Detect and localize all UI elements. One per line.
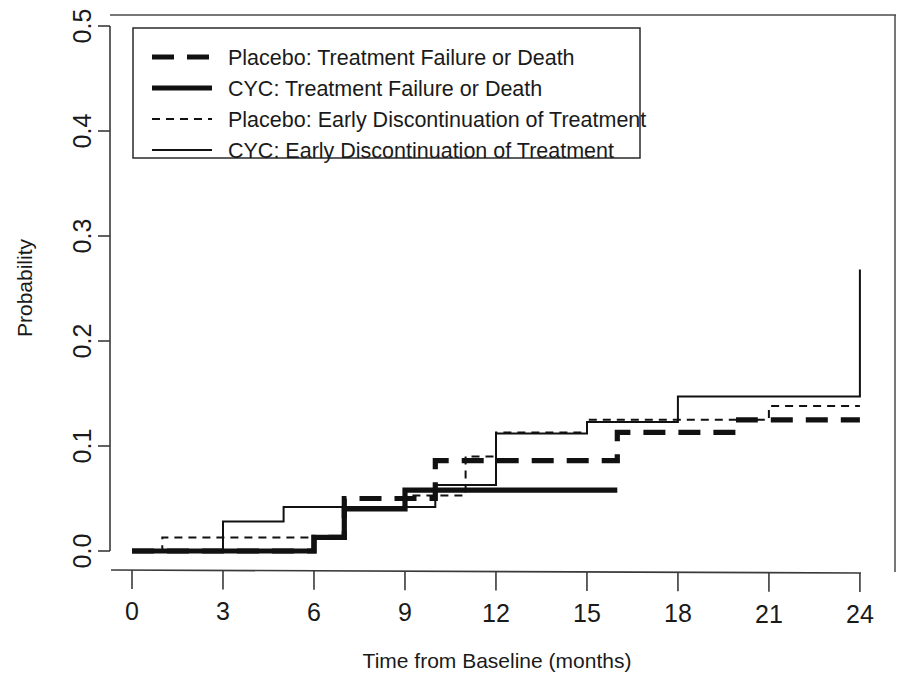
x-axis: 03691215182124 bbox=[111, 570, 874, 628]
y-tick-label: 0.0 bbox=[68, 534, 96, 569]
x-axis-tick-labels: 03691215182124 bbox=[125, 597, 874, 628]
x-tick-label: 0 bbox=[125, 597, 139, 625]
chart-canvas: 0.00.10.20.30.40.5 03691215182124 Probab… bbox=[0, 0, 897, 683]
x-tick-label: 3 bbox=[216, 597, 230, 625]
y-axis-tick-labels: 0.00.10.20.30.40.5 bbox=[68, 9, 96, 569]
chart-legend: Placebo: Treatment Failure or DeathCYC: … bbox=[133, 28, 646, 163]
y-axis-ticks bbox=[98, 26, 110, 551]
x-tick-label: 21 bbox=[755, 600, 783, 628]
survival-curve-figure: 0.00.10.20.30.40.5 03691215182124 Probab… bbox=[0, 0, 897, 683]
legend-label: Placebo: Early Discontinuation of Treatm… bbox=[228, 108, 646, 132]
legend-label: CYC: Treatment Failure or Death bbox=[228, 77, 542, 101]
data-curves bbox=[132, 270, 860, 551]
x-tick-label: 12 bbox=[482, 599, 510, 627]
y-tick-label: 0.1 bbox=[68, 429, 96, 464]
x-axis-title: Time from Baseline (months) bbox=[363, 649, 632, 672]
x-tick-label: 18 bbox=[664, 599, 692, 627]
y-axis: 0.00.10.20.30.40.5 bbox=[68, 9, 110, 569]
y-tick-label: 0.4 bbox=[68, 114, 96, 149]
x-tick-label: 9 bbox=[398, 598, 412, 626]
x-tick-label: 6 bbox=[307, 598, 321, 626]
y-tick-label: 0.2 bbox=[68, 324, 96, 359]
x-axis-ticks bbox=[132, 570, 860, 592]
y-tick-label: 0.5 bbox=[68, 9, 96, 44]
curve-series-3 bbox=[132, 270, 860, 551]
legend-label: Placebo: Treatment Failure or Death bbox=[228, 46, 575, 70]
x-tick-label: 15 bbox=[573, 599, 601, 627]
y-axis-title: Probability bbox=[13, 238, 36, 337]
legend-label: CYC: Early Discontinuation of Treatment bbox=[228, 139, 614, 163]
y-tick-label: 0.3 bbox=[68, 219, 96, 254]
x-tick-label: 24 bbox=[846, 600, 874, 628]
